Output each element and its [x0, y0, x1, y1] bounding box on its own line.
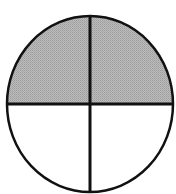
fraction-circle-diagram — [0, 0, 176, 194]
